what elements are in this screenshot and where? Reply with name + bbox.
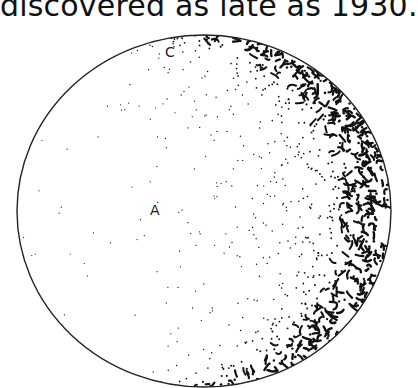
label-c: C [165, 44, 175, 60]
label-a: A [150, 202, 160, 218]
